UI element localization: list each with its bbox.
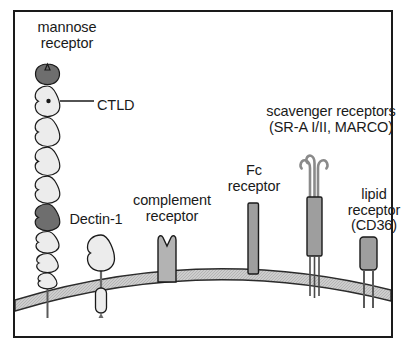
dectin-1-lectin-head [88,235,115,271]
mannose-domain-8 [38,273,57,289]
mannose-domain-3 [35,147,60,175]
fc-receptor-body [248,203,259,274]
mannose-domain-4 [35,176,60,203]
label-fc-receptor: Fc receptor [227,163,281,194]
scavenger-hook-right [318,160,327,200]
label-lipid-receptor: lipid receptor (CD36) [341,187,407,234]
label-ctld: CTLD [97,98,134,114]
mannose-domain-2 [35,118,60,147]
label-mannose-receptor: mannose receptor [14,20,120,51]
receptor-diagram-figure: mannose receptor CTLD Dectin-1 complemen… [0,0,409,358]
mannose-domain-0 [36,64,60,85]
label-dectin-1: Dectin-1 [58,212,134,228]
mannose-domain-6 [36,232,59,254]
mannose-domain-chain [35,64,60,289]
fc-receptor [248,203,259,274]
dectin-1-itam-tip [99,313,104,318]
label-scavenger-receptors: scavenger receptors (SR-A I/II, MARCO) [257,104,405,135]
lipid-receptor-body [360,237,377,270]
mannose-domain-5-dark [35,204,60,231]
scavenger-trunk [307,197,322,256]
ctld-marker-dot [46,99,50,103]
complement-receptor-body [158,236,176,282]
mannose-receptor [35,64,94,318]
complement-receptor [158,236,176,282]
diagram-canvas [0,0,409,358]
dectin-1-receptor [88,235,115,318]
scavenger-hook-left [301,160,310,200]
plasma-membrane [15,269,391,311]
mannose-domain-7 [37,254,59,273]
label-complement-receptor: complement receptor [124,193,220,224]
dectin-1-cytoplasmic-tail [96,288,107,313]
